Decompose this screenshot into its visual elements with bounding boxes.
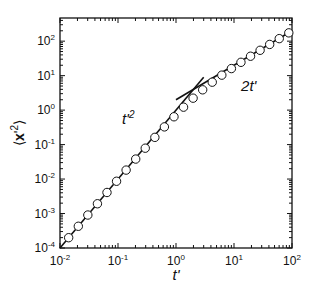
x-tick-label: 102 [283, 253, 301, 268]
y-tick-label: 102 [37, 33, 55, 48]
y-label-x: x [11, 133, 27, 141]
data-point-circle [198, 86, 206, 94]
data-point-circle [93, 200, 101, 208]
y-tick-label: 10-1 [35, 137, 56, 152]
svg-text:⟨x'2⟩: ⟨x'2⟩ [9, 120, 27, 146]
data-point-circle [227, 64, 235, 72]
y-tick-label: 10-3 [35, 206, 56, 221]
y-tick-label: 100 [37, 102, 55, 117]
x-tick-label: 10-2 [50, 253, 71, 268]
y-axis-label: ⟨x'2⟩ [9, 120, 27, 146]
y-tick-label: 10-4 [35, 240, 56, 255]
data-point-circle [256, 46, 264, 54]
data-points [64, 29, 293, 242]
x-axis-label: t' [172, 266, 180, 283]
tick-labels: 10-210-110010110210-410-310-210-11001011… [35, 33, 302, 268]
x-tick-label: 10-1 [108, 253, 129, 268]
data-point-circle [275, 34, 283, 42]
data-point-circle [246, 52, 254, 60]
data-point-circle [103, 188, 111, 196]
data-point-circle [64, 233, 72, 241]
data-point-circle [179, 103, 187, 111]
data-point-circle [112, 177, 120, 185]
data-point-circle [189, 94, 197, 102]
data-point-circle [160, 123, 168, 131]
data-point-circle [237, 58, 245, 66]
data-point-circle [141, 144, 149, 152]
asymptote-lines [60, 31, 292, 248]
data-point-circle [170, 113, 178, 121]
y-tick-label: 101 [37, 68, 55, 83]
x-tick-label: 101 [225, 253, 243, 268]
data-point-circle [265, 40, 273, 48]
data-point-circle [122, 166, 130, 174]
data-point-circle [285, 29, 293, 37]
annotations: t'22t' [122, 77, 258, 126]
log-log-chart: 10-210-110010110210-410-310-210-11001011… [0, 0, 314, 292]
y-label-close-bracket: ⟩ [11, 120, 27, 125]
curve-annotation: 2t' [240, 77, 258, 94]
data-point-circle [132, 155, 140, 163]
data-point-circle [208, 78, 216, 86]
data-point-circle [84, 211, 92, 219]
data-point-circle [218, 71, 226, 79]
curve-annotation: t'2 [122, 109, 135, 127]
data-point-circle [151, 133, 159, 141]
y-tick-label: 10-2 [35, 171, 56, 186]
data-point-circle [74, 222, 82, 230]
